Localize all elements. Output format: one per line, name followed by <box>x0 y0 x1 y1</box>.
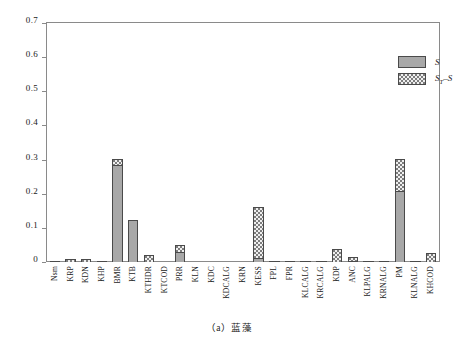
x-axis-tick-label-slot: KLNALG <box>408 266 424 316</box>
x-axis-tick-label-slot: FPR <box>282 266 298 316</box>
x-axis-tick-label: PRR <box>176 266 184 281</box>
bar-stack[interactable] <box>112 159 122 262</box>
bar-segment-s <box>379 261 389 262</box>
x-axis-tick-label-slot: KDCALG <box>219 266 235 316</box>
bar-segment-st-minus-s <box>65 259 75 262</box>
bar-segment-st-minus-s <box>175 245 185 252</box>
bar-stack[interactable] <box>316 261 326 262</box>
bar-stack[interactable] <box>426 253 436 262</box>
x-axis-tick-label: PM <box>396 266 404 277</box>
x-axis-tick-label: KHP <box>98 266 106 282</box>
bar-stack[interactable] <box>395 159 405 262</box>
bar-stack[interactable] <box>363 261 373 262</box>
bar-segment-s <box>175 252 185 262</box>
bar-stack[interactable] <box>410 261 420 262</box>
x-axis-tick-label-slot: KDC <box>204 266 220 316</box>
x-axis-tick-label-slot: KRNALG <box>376 266 392 316</box>
x-axis-tick-label-slot: KRN <box>235 266 251 316</box>
x-axis-tick-label-slot: PM <box>392 266 408 316</box>
x-axis-tick-label-slot: KRP <box>63 266 79 316</box>
x-axis-tick-label: Nsm <box>51 266 59 281</box>
bar-stack[interactable] <box>128 220 138 262</box>
x-axis-tick-label-slot: KTHDR <box>141 266 157 316</box>
y-axis-tick-label: 0.6 <box>26 50 38 59</box>
x-axis-tick-label-slot: ANC <box>345 266 361 316</box>
bar-stack[interactable] <box>300 261 310 262</box>
x-axis-tick-label: KTB <box>129 266 137 282</box>
bar-stack[interactable] <box>97 261 107 262</box>
bar-segment-st-minus-s <box>395 159 405 192</box>
x-axis-tick-label-slot: KTB <box>125 266 141 316</box>
y-axis-tick-label: 0 <box>33 255 38 264</box>
x-axis-tick-label: KLNALG <box>411 266 419 298</box>
x-axis-tick-label-slot: KHCOD <box>423 266 439 316</box>
x-axis-tick-label: KDC <box>208 266 216 283</box>
bar-stack[interactable] <box>332 249 342 262</box>
x-axis-tick-label-slot: KLCALG <box>298 266 314 316</box>
x-axis-tick-label: KRCALG <box>317 266 325 298</box>
x-axis-tick-label: KDP <box>333 266 341 282</box>
x-axis-tick-label: KHCOD <box>427 266 435 294</box>
x-axis-tick-label-slot: BMR <box>110 266 126 316</box>
bar-stack[interactable] <box>348 257 358 262</box>
x-axis-tick-label: KDCALG <box>223 266 231 299</box>
bar-stack[interactable] <box>175 245 185 262</box>
x-axis-tick-label-slot: KRCALG <box>314 266 330 316</box>
bar-segment-s <box>97 261 107 262</box>
bars-layer <box>47 23 439 262</box>
x-axis-tick-label-slot: KDN <box>78 266 94 316</box>
bar-segment-s <box>410 261 420 262</box>
bar-stack[interactable] <box>253 207 263 262</box>
x-axis-tick-label: FPL <box>270 266 278 280</box>
x-axis-tick-label: BMR <box>114 266 122 283</box>
y-axis-tick-label: 0.1 <box>26 221 38 230</box>
x-axis-tick-label-slot: KLPALG <box>361 266 377 316</box>
x-axis-tick-label: KLN <box>192 266 200 282</box>
x-axis-tick-label-slot: KLN <box>188 266 204 316</box>
bar-segment-st-minus-s <box>81 259 91 262</box>
x-axis-tick-label-slot: Nsm <box>47 266 63 316</box>
bar-segment-st-minus-s <box>426 253 436 262</box>
bar-segment-s <box>300 261 310 262</box>
bar-stack[interactable] <box>379 261 389 262</box>
x-axis-tick-label: KDN <box>82 266 90 283</box>
x-axis-tick-label: KTHDR <box>145 266 153 293</box>
bar-segment-s <box>112 165 122 262</box>
x-axis-tick-label-slot: KTCOD <box>157 266 173 316</box>
x-axis-tick-label: FPR <box>286 266 294 280</box>
bar-segment-st-minus-s <box>253 207 263 258</box>
y-axis-tick-mark <box>42 262 46 263</box>
x-axis-tick-label: ANC <box>349 266 357 283</box>
bar-segment-s <box>348 261 358 262</box>
y-axis-tick-label: 0.3 <box>26 153 38 162</box>
bar-segment-st-minus-s <box>144 255 154 262</box>
y-axis-tick-label: 0.7 <box>26 16 38 25</box>
bar-stack[interactable] <box>269 261 279 262</box>
bar-segment-s <box>269 261 279 262</box>
x-axis-tick-label: KESS <box>255 266 263 285</box>
figure-container: 00.10.20.30.40.50.60.7 SST–S NsmKRPKDNKH… <box>0 0 458 344</box>
bar-stack[interactable] <box>144 255 154 262</box>
x-axis-labels: NsmKRPKDNKHPBMRKTBKTHDRKTCODPRRKLNKDCKDC… <box>47 266 439 316</box>
bar-segment-s <box>395 191 405 262</box>
y-axis-tick-label: 0.5 <box>26 84 38 93</box>
bar-stack[interactable] <box>81 259 91 262</box>
x-axis-tick-label-slot: KESS <box>251 266 267 316</box>
x-axis-tick-label-slot: KDP <box>329 266 345 316</box>
x-axis-tick-label: KLCALG <box>302 266 310 298</box>
x-axis-tick-label: KTCOD <box>161 266 169 293</box>
bar-segment-s <box>128 220 138 262</box>
bar-stack[interactable] <box>50 261 60 262</box>
bar-segment-s <box>50 261 60 262</box>
bar-segment-s <box>363 261 373 262</box>
bar-stack[interactable] <box>65 259 75 262</box>
y-axis: 00.10.20.30.40.50.60.7 <box>0 0 46 264</box>
figure-caption: （a）蓝藻 <box>0 320 458 334</box>
x-axis-tick-label-slot: PRR <box>172 266 188 316</box>
bar-stack[interactable] <box>285 261 295 262</box>
x-axis-tick-label-slot: KHP <box>94 266 110 316</box>
bar-segment-st-minus-s <box>332 249 342 262</box>
y-axis-tick-label: 0.2 <box>26 187 38 196</box>
x-axis-tick-label: KRN <box>239 266 247 283</box>
y-axis-tick-label: 0.4 <box>26 118 38 127</box>
